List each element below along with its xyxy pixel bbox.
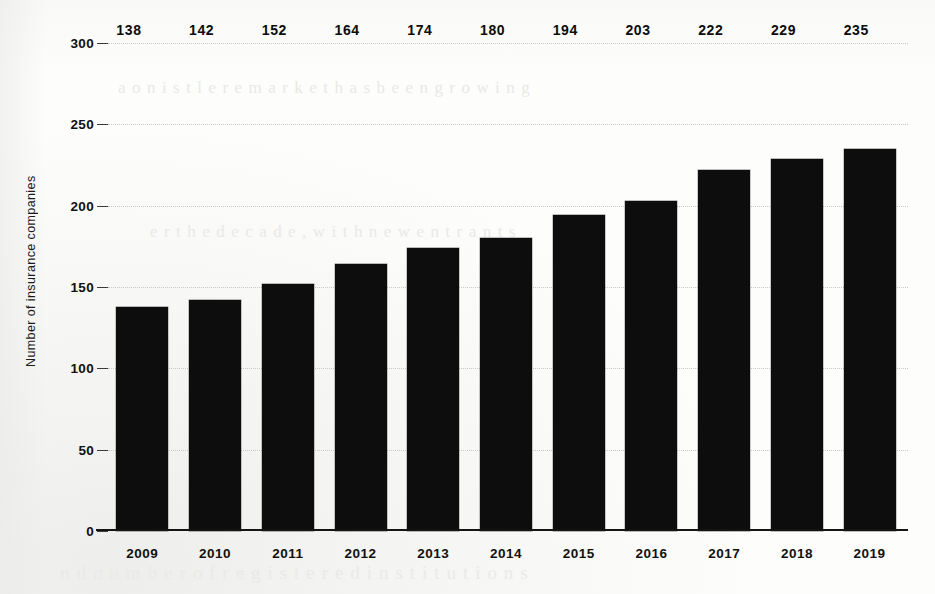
bar-rect[interactable]: 222 — [698, 170, 750, 531]
bar-value-label: 180 — [480, 22, 505, 38]
x-axis-tick-label: 2010 — [199, 546, 231, 561]
bar-rect[interactable]: 180 — [480, 238, 532, 531]
bar-item[interactable]: 2222017 — [698, 43, 750, 531]
bar-rect[interactable]: 235 — [844, 149, 896, 531]
bar-value-label: 142 — [189, 22, 214, 38]
bar-value-label: 222 — [698, 22, 723, 38]
bar-item[interactable]: 1742013 — [407, 43, 459, 531]
bar-chart: Number of insurance companies 0501001502… — [0, 0, 935, 594]
y-axis-tick-mark — [97, 206, 108, 207]
y-axis-tick-label: 300 — [71, 36, 94, 51]
bar-rect[interactable]: 174 — [407, 248, 459, 531]
y-axis-tick-label: 100 — [71, 361, 94, 376]
x-axis-tick-label: 2016 — [635, 546, 667, 561]
bar-value-label: 152 — [262, 22, 287, 38]
x-axis-tick-label: 2018 — [781, 546, 813, 561]
y-axis-tick-label: 50 — [78, 442, 94, 457]
bar-item[interactable]: 1422010 — [189, 43, 241, 531]
bar-value-label: 203 — [625, 22, 650, 38]
bar-item[interactable]: 1522011 — [262, 43, 314, 531]
x-axis-tick-label: 2011 — [272, 546, 303, 561]
bar-item[interactable]: 1642012 — [335, 43, 387, 531]
y-axis-tick-label: 0 — [86, 524, 94, 539]
bar-value-label: 138 — [116, 22, 141, 38]
bar-rect[interactable]: 194 — [553, 215, 605, 531]
bar-rect[interactable]: 164 — [335, 264, 387, 531]
bar-value-label: 194 — [553, 22, 578, 38]
bar-item[interactable]: 1802014 — [480, 43, 532, 531]
bar-item[interactable]: 2292018 — [771, 43, 823, 531]
bar-item[interactable]: 1382009 — [116, 43, 168, 531]
y-axis-tick-mark — [97, 450, 108, 451]
y-axis-tick-mark — [97, 531, 108, 532]
bar-rect[interactable]: 229 — [771, 159, 823, 532]
y-axis-tick-label: 150 — [71, 280, 94, 295]
bar-item[interactable]: 2352019 — [844, 43, 896, 531]
y-axis-title: Number of insurance companies — [18, 140, 44, 402]
bar-rect[interactable]: 152 — [262, 284, 314, 531]
x-axis-tick-label: 2015 — [563, 546, 595, 561]
x-axis-tick-label: 2019 — [854, 546, 886, 561]
y-axis-tick-mark — [97, 368, 108, 369]
y-axis-tick-mark — [97, 124, 108, 125]
bar-item[interactable]: 2032016 — [625, 43, 677, 531]
bar-value-label: 229 — [771, 22, 796, 38]
y-axis-tick-label: 200 — [71, 198, 94, 213]
y-axis-tick-mark — [97, 287, 108, 288]
x-axis-tick-label: 2017 — [708, 546, 740, 561]
x-axis-line — [96, 529, 908, 531]
plot-area: 050100150200250300 138200914220101522011… — [108, 43, 908, 531]
bar-rect[interactable]: 203 — [625, 201, 677, 531]
x-axis-tick-label: 2012 — [345, 546, 377, 561]
bar-value-label: 174 — [407, 22, 432, 38]
bar-value-label: 164 — [335, 22, 360, 38]
bar-rect[interactable]: 138 — [116, 307, 168, 531]
bar-rect[interactable]: 142 — [189, 300, 241, 531]
x-axis-tick-label: 2013 — [417, 546, 449, 561]
bar-item[interactable]: 1942015 — [553, 43, 605, 531]
y-axis-tick-label: 250 — [71, 117, 94, 132]
x-axis-tick-label: 2009 — [126, 546, 158, 561]
y-axis-tick-mark — [97, 43, 108, 44]
bar-value-label: 235 — [844, 22, 869, 38]
x-axis-tick-label: 2014 — [490, 546, 522, 561]
